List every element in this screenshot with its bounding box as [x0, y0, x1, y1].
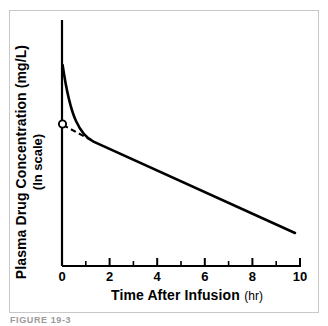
x-tick-label-4: 4	[144, 270, 170, 284]
x-axis-title-unit: (hr)	[244, 289, 263, 303]
y-axis-title-scale: (ln scale)	[30, 27, 45, 297]
y-axis-title-main: Plasma Drug Concentration (mg/L)	[13, 27, 29, 297]
x-tick-label-2: 2	[97, 270, 123, 284]
x-axis-title-main: Time After Infusion	[111, 287, 240, 303]
concentration-curve	[63, 65, 295, 233]
y-axis-title: Plasma Drug Concentration (mg/L) (ln sca…	[13, 27, 57, 297]
x-tick-label-10: 10	[287, 270, 313, 284]
x-tick-label-6: 6	[192, 270, 218, 284]
terminal-intercept-marker	[59, 120, 66, 127]
x-tick-label-8: 8	[239, 270, 265, 284]
figure-caption: FIGURE 19-3	[10, 316, 130, 325]
x-axis-title: Time After Infusion (hr)	[62, 286, 312, 304]
figure-root: 0 2 4 6 8 10 Time After Infusion (hr) Pl…	[0, 0, 328, 326]
